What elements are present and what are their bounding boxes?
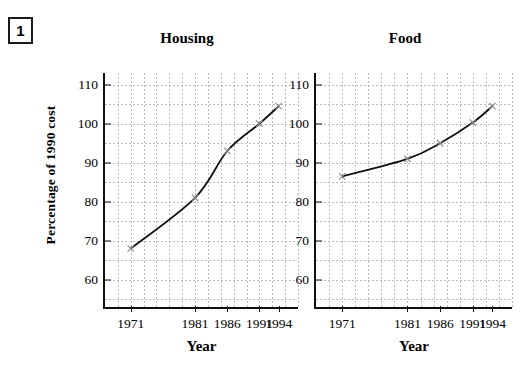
- x-axis-caption: Year: [105, 338, 298, 355]
- data-point-marker: [224, 148, 230, 154]
- x-tick-label: 1994: [479, 316, 506, 332]
- chart-title-housing: Housing: [75, 30, 299, 47]
- grid-surface-housing: 6070809010011019711981198619911994Year: [105, 73, 298, 307]
- y-tick-label: 80: [296, 194, 310, 210]
- chart-panel-housing: Housing 60708090100110197119811986199119…: [75, 0, 299, 365]
- data-point-marker: [470, 119, 476, 125]
- x-tick-label: 1981: [182, 316, 209, 332]
- y-tick-label: 100: [78, 116, 98, 132]
- data-point-marker: [128, 245, 134, 251]
- x-tick-label: 1994: [265, 316, 292, 332]
- y-axis-caption: Percentage of 1990 cost: [41, 60, 61, 290]
- y-tick-label: 70: [296, 233, 310, 249]
- x-tick-label: 1986: [427, 316, 454, 332]
- plot-area-housing: 6070809010011019711981198619911994Year: [103, 73, 298, 309]
- y-tick-label: 70: [85, 233, 99, 249]
- data-point-marker: [256, 121, 262, 127]
- y-tick-label: 110: [78, 77, 98, 93]
- chart-title-food: Food: [290, 30, 520, 47]
- data-point-marker: [437, 140, 443, 146]
- x-tick-label: 1971: [329, 316, 356, 332]
- x-axis-line-food: [314, 307, 512, 309]
- y-tick-label: 100: [289, 116, 309, 132]
- data-point-marker: [276, 103, 282, 109]
- data-series-housing: [105, 73, 298, 307]
- data-point-marker: [489, 103, 495, 109]
- y-tick-label: 90: [85, 155, 99, 171]
- x-tick-label: 1971: [117, 316, 144, 332]
- series-line: [342, 106, 492, 176]
- y-tick-label: 90: [296, 155, 310, 171]
- x-tick-label: 1981: [394, 316, 421, 332]
- question-number-badge: 1: [8, 17, 33, 44]
- series-line: [131, 106, 279, 248]
- plot-area-food: 6070809010011019711981198619911994Year: [314, 73, 512, 309]
- question-number-label: 1: [16, 23, 24, 38]
- y-tick-label: 110: [289, 77, 309, 93]
- x-axis-line-housing: [103, 307, 298, 309]
- chart-panel-food: Food 6070809010011019711981198619911994Y…: [290, 0, 520, 365]
- x-axis-caption: Year: [316, 338, 512, 355]
- y-tick-label: 80: [85, 194, 99, 210]
- x-tick-label: 1986: [214, 316, 241, 332]
- y-tick-label: 60: [85, 272, 99, 288]
- y-tick-label: 60: [296, 272, 310, 288]
- data-point-marker: [192, 195, 198, 201]
- grid-surface-food: 6070809010011019711981198619911994Year: [316, 73, 512, 307]
- data-series-food: [316, 73, 512, 307]
- gridline-vertical: [512, 73, 513, 307]
